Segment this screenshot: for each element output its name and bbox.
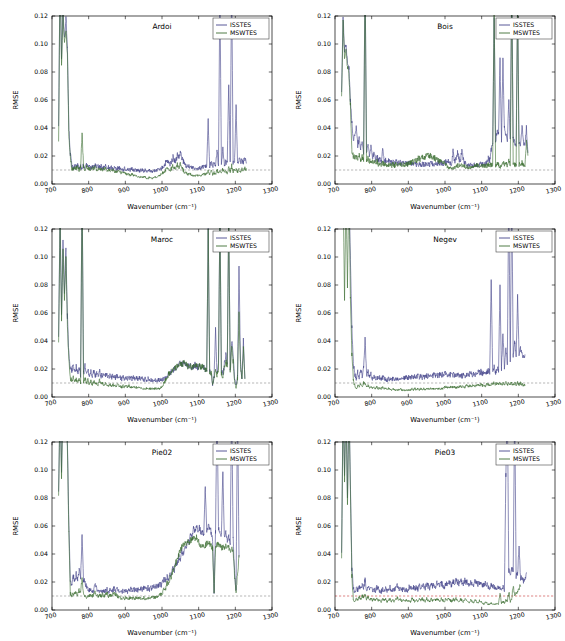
- y-tick-label: 0.10: [34, 253, 48, 260]
- legend-label-mswtes: MSWTES: [513, 455, 540, 462]
- x-axis-label: Wavenumber (cm⁻¹): [410, 629, 480, 637]
- y-tick-label: 0.04: [34, 337, 48, 344]
- y-tick-label: 0.06: [317, 96, 331, 103]
- y-tick-label: 0.00: [317, 606, 331, 613]
- x-tick-label: 800: [81, 611, 94, 620]
- x-tick-label: 1300: [545, 397, 562, 407]
- x-axis-label: Wavenumber (cm⁻¹): [127, 203, 197, 211]
- x-tick-label: 1300: [545, 184, 562, 194]
- y-tick-label: 0.02: [317, 578, 331, 585]
- subplot-title: Negev: [433, 235, 457, 244]
- legend-label-isstes: ISSTES: [230, 447, 251, 454]
- y-tick-label: 0.12: [34, 12, 48, 19]
- y-axis-label: RMSE: [295, 303, 303, 322]
- subplot-maroc: 70080090010001100120013000.000.020.040.0…: [0, 215, 282, 428]
- x-tick-label: 800: [364, 398, 377, 407]
- y-axis-label: RMSE: [12, 303, 20, 322]
- x-tick-label: 900: [400, 611, 413, 620]
- x-tick-label: 800: [81, 398, 94, 407]
- x-tick-label: 1200: [508, 184, 525, 194]
- x-axis-label: Wavenumber (cm⁻¹): [127, 416, 197, 424]
- y-tick-label: 0.10: [317, 466, 331, 473]
- x-tick-label: 1200: [225, 397, 242, 407]
- y-tick-label: 0.12: [34, 225, 48, 232]
- x-tick-label: 1100: [189, 610, 206, 620]
- y-tick-label: 0.00: [34, 393, 48, 400]
- y-tick-label: 0.12: [317, 12, 331, 19]
- y-tick-label: 0.04: [317, 337, 331, 344]
- x-tick-label: 1300: [262, 184, 279, 194]
- y-tick-label: 0.08: [34, 68, 48, 75]
- x-tick-label: 1100: [189, 397, 206, 407]
- y-tick-label: 0.00: [317, 393, 331, 400]
- x-tick-label: 1000: [435, 397, 452, 407]
- y-tick-label: 0.00: [34, 180, 48, 187]
- x-tick-label: 1300: [262, 397, 279, 407]
- y-tick-label: 0.00: [317, 180, 331, 187]
- x-tick-label: 1300: [545, 610, 562, 620]
- x-tick-label: 900: [117, 185, 130, 194]
- x-tick-label: 1000: [152, 610, 169, 620]
- x-tick-label: 1000: [152, 184, 169, 194]
- x-tick-label: 1200: [225, 184, 242, 194]
- y-tick-label: 0.04: [34, 550, 48, 557]
- x-tick-label: 1100: [472, 397, 489, 407]
- subplot-pie03: 70080090010001100120013000.000.020.040.0…: [283, 428, 565, 641]
- x-tick-label: 1000: [152, 397, 169, 407]
- x-tick-label: 900: [400, 398, 413, 407]
- x-tick-label: 800: [364, 185, 377, 194]
- y-tick-label: 0.12: [34, 438, 48, 445]
- y-tick-label: 0.10: [317, 40, 331, 47]
- y-tick-label: 0.06: [34, 96, 48, 103]
- y-tick-label: 0.04: [317, 124, 331, 131]
- y-tick-label: 0.08: [34, 281, 48, 288]
- x-axis-label: Wavenumber (cm⁻¹): [410, 416, 480, 424]
- y-tick-label: 0.04: [317, 550, 331, 557]
- x-tick-label: 1100: [472, 184, 489, 194]
- subplot-title: Pie02: [152, 448, 172, 457]
- y-tick-label: 0.12: [317, 438, 331, 445]
- x-axis-label: Wavenumber (cm⁻¹): [410, 203, 480, 211]
- x-tick-label: 1100: [189, 184, 206, 194]
- x-tick-label: 900: [400, 185, 413, 194]
- legend-label-isstes: ISSTES: [230, 234, 251, 241]
- subplot-pie02: 70080090010001100120013000.000.020.040.0…: [0, 428, 282, 641]
- subplot-title: Pie03: [435, 448, 456, 457]
- x-tick-label: 900: [117, 398, 130, 407]
- y-tick-label: 0.06: [317, 522, 331, 529]
- y-tick-label: 0.02: [317, 152, 331, 159]
- y-axis-label: RMSE: [295, 90, 303, 109]
- y-tick-label: 0.02: [34, 578, 48, 585]
- figure-canvas: 70080090010001100120013000.000.020.040.0…: [0, 0, 565, 641]
- y-axis-label: RMSE: [12, 90, 20, 109]
- x-tick-label: 800: [81, 185, 94, 194]
- legend-label-mswtes: MSWTES: [513, 29, 540, 36]
- legend-label-mswtes: MSWTES: [513, 242, 540, 249]
- subplot-bois: 70080090010001100120013000.000.020.040.0…: [283, 2, 565, 215]
- y-tick-label: 0.04: [34, 124, 48, 131]
- y-tick-label: 0.08: [34, 494, 48, 501]
- y-tick-label: 0.12: [317, 225, 331, 232]
- y-tick-label: 0.06: [34, 522, 48, 529]
- x-tick-label: 1200: [225, 610, 242, 620]
- y-tick-label: 0.08: [317, 281, 331, 288]
- y-tick-label: 0.10: [317, 253, 331, 260]
- legend-label-isstes: ISSTES: [513, 21, 534, 28]
- subplot-title: Maroc: [151, 235, 173, 244]
- y-axis-label: RMSE: [295, 516, 303, 535]
- y-tick-label: 0.02: [34, 152, 48, 159]
- legend-label-isstes: ISSTES: [513, 447, 534, 454]
- y-tick-label: 0.00: [34, 606, 48, 613]
- subplot-negev: 70080090010001100120013000.000.020.040.0…: [283, 215, 565, 428]
- y-tick-label: 0.06: [34, 309, 48, 316]
- legend-label-mswtes: MSWTES: [230, 455, 257, 462]
- y-tick-label: 0.08: [317, 494, 331, 501]
- y-tick-label: 0.08: [317, 68, 331, 75]
- legend-label-mswtes: MSWTES: [230, 242, 257, 249]
- y-tick-label: 0.02: [34, 365, 48, 372]
- x-tick-label: 900: [117, 611, 130, 620]
- x-tick-label: 1200: [508, 397, 525, 407]
- y-tick-label: 0.10: [34, 466, 48, 473]
- y-tick-label: 0.06: [317, 309, 331, 316]
- legend-label-isstes: ISSTES: [513, 234, 534, 241]
